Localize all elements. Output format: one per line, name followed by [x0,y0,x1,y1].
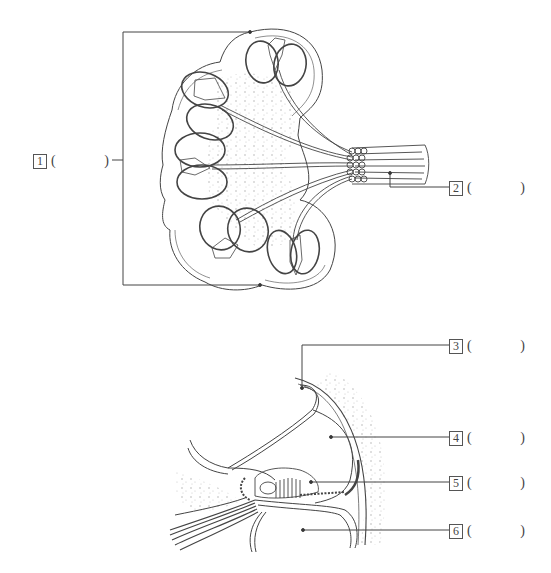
label-4-number: 4 [449,431,463,446]
label-4-close-paren: ) [520,430,525,446]
label-2-number: 2 [449,181,463,196]
label-1-close-paren: ) [104,153,109,169]
bone-stipple-region [315,370,386,545]
label-1-answer-blank[interactable] [56,153,105,169]
label-6-answer-blank[interactable] [472,523,521,539]
label-6-number: 6 [449,524,463,539]
cochlear-duct-detail [170,370,386,552]
label-3-answer-blank[interactable] [472,338,521,354]
cochlea-cross-section [160,29,429,290]
label-5: 5 ( ) [449,474,525,492]
label-6-close-paren: ) [520,523,525,539]
cochlear-nerve-bundle [347,145,429,184]
label-5-answer-blank[interactable] [472,475,521,491]
bone-stipple-left [175,470,240,511]
label-6: 6 ( ) [449,522,525,540]
label-1: 1 ( ) [33,152,109,170]
label-3-close-paren: ) [520,338,525,354]
label-2-close-paren: ) [520,180,525,196]
organ-of-corti [241,468,345,500]
label-4: 4 ( ) [449,429,525,447]
label-2: 2 ( ) [449,179,525,197]
label-2-answer-blank[interactable] [472,180,521,196]
label-3-number: 3 [449,339,463,354]
label-3: 3 ( ) [449,337,525,355]
label-4-answer-blank[interactable] [472,430,521,446]
label-1-number: 1 [33,154,47,169]
leader-label-2 [390,173,449,187]
label-5-number: 5 [449,476,463,491]
label-5-close-paren: ) [520,475,525,491]
reissner-membrane [228,385,316,468]
